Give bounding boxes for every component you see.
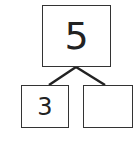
part-box-right-empty[interactable] <box>83 85 133 128</box>
connector-left <box>49 67 76 85</box>
whole-value: 5 <box>64 14 88 58</box>
part-box-left: 3 <box>21 85 69 128</box>
connector-right <box>76 67 105 85</box>
whole-box: 5 <box>42 5 111 67</box>
part-left-value: 3 <box>37 93 52 121</box>
